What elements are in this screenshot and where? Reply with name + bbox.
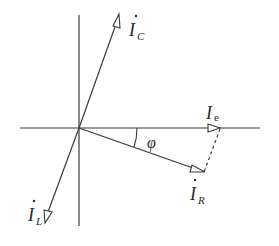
dashed-connector	[204, 129, 220, 172]
phasor-diagram: I C I e I R I L φ	[0, 0, 279, 246]
svg-text:I: I	[128, 20, 136, 40]
svg-text:e: e	[214, 111, 219, 123]
svg-text:L: L	[35, 215, 42, 227]
label-il: I L	[27, 200, 42, 227]
svg-text:C: C	[137, 30, 145, 42]
svg-text:I: I	[205, 103, 213, 123]
phasor-ir	[79, 128, 205, 172]
angle-label: φ	[147, 134, 156, 152]
phasor-il	[44, 128, 79, 223]
angle-arc	[134, 128, 137, 147]
phasor-ie	[208, 124, 220, 132]
svg-text:I: I	[27, 205, 35, 225]
label-ir: I R	[189, 179, 205, 206]
svg-text:R: R	[197, 194, 205, 206]
label-ie: I e	[205, 103, 219, 123]
label-ic: I C	[128, 15, 145, 42]
svg-text:I: I	[189, 184, 197, 204]
phasor-ic	[79, 14, 120, 128]
